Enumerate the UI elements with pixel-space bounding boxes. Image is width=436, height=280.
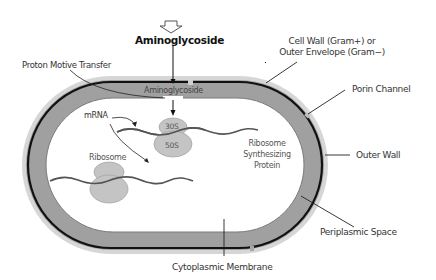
ribosome-synthesizing-label: Ribosome Synthesizing Protein <box>232 138 302 171</box>
ribosome-synthesizing-line3: Protein <box>232 160 302 171</box>
ribosome-synthesizing-line1: Ribosome <box>232 138 302 149</box>
ribosome-label: Ribosome <box>89 152 126 163</box>
ribosome-synthesizing-line2: Synthesizing <box>232 149 302 160</box>
mrna-label: mRNA <box>84 110 108 121</box>
cell-wall-label-line1: Cell Wall (Gram+) or <box>246 36 418 47</box>
porin-channel-label: Porin Channel <box>352 84 410 95</box>
wall-gap-bottom <box>250 246 254 251</box>
down-arrow-icon <box>160 21 182 33</box>
aminoglycoside-title: Aminoglycoside <box>135 35 224 46</box>
ribosome-30s-label: 30S <box>165 121 178 132</box>
ribosome-50s-label: 50S <box>165 140 178 151</box>
cell-wall-label-line2: Outer Envelope (Gram−) <box>246 47 418 58</box>
ribosome-lower-large <box>90 175 128 203</box>
aminoglycoside-inner-label: Aminoglycoside <box>144 85 203 96</box>
proton-motive-label: Proton Motive Transfer <box>22 60 111 71</box>
outer-wall-label: Outer Wall <box>356 150 400 161</box>
membrane-gap <box>163 96 183 100</box>
cell-wall-leader <box>265 62 266 63</box>
cell-wall-label: Cell Wall (Gram+) or Outer Envelope (Gra… <box>246 36 418 58</box>
cytoplasmic-membrane-label: Cytoplasmic Membrane <box>172 262 272 273</box>
periplasmic-space-label: Periplasmic Space <box>320 227 397 238</box>
porin-channel-leader <box>308 90 345 114</box>
